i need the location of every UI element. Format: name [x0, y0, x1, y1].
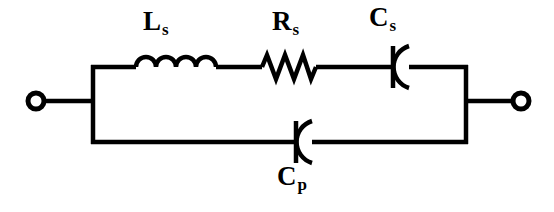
- terminal-right-circle-icon: [513, 93, 529, 109]
- inductor-Ls-label-subscript: s: [162, 20, 169, 39]
- capacitor-Cp-plate-curved: [297, 121, 312, 163]
- inductor-Ls-label-base: L: [143, 6, 161, 36]
- capacitor-Cp-label-base: C: [277, 161, 297, 191]
- resistor-Rs-zigzag: [262, 55, 316, 79]
- capacitor-Cs-label-base: C: [369, 2, 389, 32]
- capacitor-Cs-label: Cs: [369, 4, 396, 34]
- inductor-Ls-label: Ls: [143, 8, 169, 38]
- inductor-Ls-coils: [136, 57, 216, 67]
- capacitor-Cs-plate-curved: [394, 46, 409, 88]
- resistor-Rs-label: Rs: [272, 8, 299, 38]
- circuit-diagram: Ls Rs Cs Cp: [0, 0, 554, 212]
- terminal-left-circle-icon: [28, 93, 44, 109]
- capacitor-Cp-label-subscript: p: [298, 175, 307, 194]
- resistor-Rs-label-subscript: s: [293, 20, 300, 39]
- capacitor-Cp-label: Cp: [277, 163, 307, 193]
- resistor-Rs-label-base: R: [272, 6, 292, 36]
- capacitor-Cs-label-subscript: s: [390, 16, 397, 35]
- circuit-wiring-group: [44, 46, 513, 163]
